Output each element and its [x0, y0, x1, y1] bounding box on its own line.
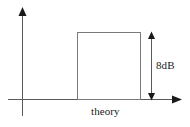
dimension-arrowhead-top-icon: [148, 32, 155, 40]
figure-canvas: 8dB theory: [0, 0, 190, 127]
bar-rectangle-theory: [78, 33, 141, 100]
x-axis-arrowhead-icon: [172, 96, 182, 104]
height-dimension-label: 8dB: [156, 59, 175, 71]
x-axis-label: theory: [91, 105, 120, 117]
y-axis-arrowhead-icon: [19, 7, 27, 16]
